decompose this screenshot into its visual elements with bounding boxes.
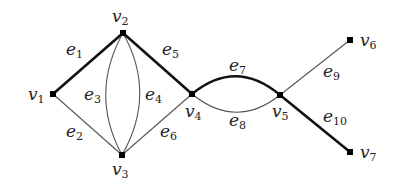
edge-label-e8: e8 (229, 110, 246, 132)
edge-e9 (280, 40, 350, 95)
labels: e1e2e3e4e5e6e7e8e9e10v1v2v3v4v5v6v7 (28, 6, 377, 181)
edge-label-e1: e1 (66, 39, 83, 61)
edge-label-e9: e9 (323, 61, 340, 83)
edge-label-e10: e10 (323, 106, 347, 128)
edge-label-e3: e3 (84, 84, 101, 106)
vertex-v1 (50, 91, 56, 97)
vertex-label-v4: v4 (185, 101, 202, 123)
edge-label-e2: e2 (66, 121, 83, 143)
edge-e3 (106, 33, 123, 155)
vertex-v5 (277, 92, 283, 98)
edge-e4 (122, 33, 140, 155)
vertex-label-v3: v3 (112, 159, 129, 181)
vertex-label-v7: v7 (360, 142, 377, 164)
vertex-v2 (120, 30, 126, 36)
graph-diagram: e1e2e3e4e5e6e7e8e9e10v1v2v3v4v5v6v7 (0, 0, 406, 181)
edge-label-e4: e4 (145, 84, 162, 106)
vertex-label-v5: v5 (272, 101, 289, 123)
vertex-v3 (119, 152, 125, 158)
vertex-label-v2: v2 (112, 6, 129, 28)
edge-label-e5: e5 (162, 39, 179, 61)
vertex-v4 (189, 91, 195, 97)
edge-label-e6: e6 (160, 121, 177, 143)
vertex-label-v1: v1 (28, 84, 45, 106)
vertex-v6 (347, 37, 353, 43)
edge-e7 (192, 76, 280, 95)
edge-e5 (123, 33, 192, 94)
vertex-label-v6: v6 (360, 30, 377, 52)
edge-label-e7: e7 (229, 55, 246, 77)
vertex-v7 (347, 149, 353, 155)
